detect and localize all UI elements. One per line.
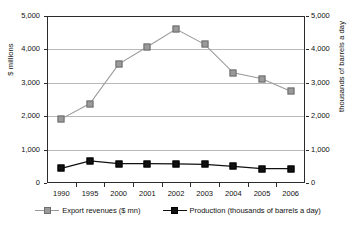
- gridline: [48, 150, 304, 151]
- data-point-marker: [115, 61, 122, 68]
- y-axis-left-tick-label: 1,000: [6, 145, 40, 154]
- x-axis-tick-label: 2004: [217, 189, 249, 198]
- data-point-marker: [230, 69, 237, 76]
- y-axis-tick-mark: [306, 83, 309, 84]
- y-axis-tick-mark: [306, 16, 309, 17]
- x-axis-tick-mark: [219, 183, 220, 187]
- y-axis-left-tick-label: 4,000: [6, 44, 40, 53]
- data-point-marker: [173, 160, 180, 167]
- y-axis-tick-mark: [44, 183, 47, 184]
- x-axis-tick-mark: [133, 183, 134, 187]
- data-point-marker: [201, 41, 208, 48]
- data-point-marker: [259, 165, 266, 172]
- y-axis-tick-mark: [44, 49, 47, 50]
- x-axis-tick-label: 2000: [103, 189, 135, 198]
- y-axis-left-tick-label: 0: [6, 178, 40, 187]
- y-axis-left-tick-label: 5,000: [6, 11, 40, 20]
- data-point-marker: [144, 43, 151, 50]
- y-axis-right-tick-label: 3,000: [311, 78, 345, 87]
- y-axis-tick-mark: [44, 83, 47, 84]
- x-axis-tick-mark: [248, 183, 249, 187]
- legend-label: Production (thousands of barrels a day): [190, 206, 321, 215]
- x-axis-tick-label: 2003: [189, 189, 221, 198]
- legend-marker-icon: [35, 206, 59, 215]
- data-point-marker: [173, 26, 180, 33]
- y-axis-tick-mark: [44, 150, 47, 151]
- gridline: [48, 83, 304, 84]
- data-point-marker: [259, 75, 266, 82]
- y-axis-right-tick-label: 2,000: [311, 111, 345, 120]
- data-point-marker: [115, 160, 122, 167]
- y-axis-left-tick-label: 2,000: [6, 111, 40, 120]
- data-point-marker: [144, 160, 151, 167]
- y-axis-right-tick-label: 4,000: [311, 44, 345, 53]
- x-axis-tick-mark: [104, 183, 105, 187]
- gridline: [48, 49, 304, 50]
- data-point-marker: [87, 157, 94, 164]
- x-axis-tick-label: 2005: [246, 189, 278, 198]
- x-axis-tick-mark: [276, 183, 277, 187]
- x-axis-tick-mark: [190, 183, 191, 187]
- data-point-marker: [87, 100, 94, 107]
- y-axis-tick-mark: [44, 16, 47, 17]
- chart-container: $ millions thousands of barrels a day 01…: [0, 0, 356, 233]
- x-axis-tick-label: 2001: [131, 189, 163, 198]
- chart-legend: Export revenues ($ mn)Production (thousa…: [0, 206, 356, 215]
- x-axis-tick-mark: [162, 183, 163, 187]
- legend-item[interactable]: Export revenues ($ mn): [35, 206, 140, 215]
- y-axis-right-title: thousands of barrels a day: [337, 21, 346, 113]
- gridline: [48, 116, 304, 117]
- x-axis-tick-label: 2002: [160, 189, 192, 198]
- data-point-marker: [201, 161, 208, 168]
- x-axis-tick-mark: [76, 183, 77, 187]
- x-axis-tick-label: 2006: [275, 189, 307, 198]
- y-axis-tick-mark: [306, 150, 309, 151]
- x-axis-tick-label: 1990: [45, 189, 77, 198]
- y-axis-tick-mark: [306, 49, 309, 50]
- data-point-marker: [58, 115, 65, 122]
- data-point-marker: [287, 165, 294, 172]
- y-axis-tick-mark: [306, 116, 309, 117]
- x-axis-tick-label: 1995: [74, 189, 106, 198]
- data-point-marker: [287, 88, 294, 95]
- y-axis-right-tick-label: 5,000: [311, 11, 345, 20]
- y-axis-right-tick-label: 1,000: [311, 145, 345, 154]
- legend-item[interactable]: Production (thousands of barrels a day): [163, 206, 321, 215]
- data-point-marker: [230, 163, 237, 170]
- y-axis-right-tick-label: 0: [311, 178, 345, 187]
- legend-marker-icon: [163, 206, 187, 215]
- data-point-marker: [58, 165, 65, 172]
- y-axis-tick-mark: [44, 116, 47, 117]
- y-axis-tick-mark: [306, 183, 309, 184]
- y-axis-left-tick-label: 3,000: [6, 78, 40, 87]
- legend-label: Export revenues ($ mn): [62, 206, 140, 215]
